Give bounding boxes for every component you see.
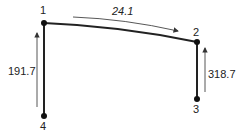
frame-diagram: 1 2 3 4 24.1 318.7 191.7 — [0, 0, 240, 137]
diagram-svg: 1 2 3 4 24.1 318.7 191.7 — [0, 0, 240, 137]
node-4 — [41, 113, 47, 119]
flow-value-1-2: 24.1 — [111, 5, 133, 17]
node-label-2: 2 — [193, 26, 199, 38]
node-label-4: 4 — [40, 120, 46, 132]
node-label-1: 1 — [40, 4, 46, 16]
flow-value-3-2: 318.7 — [208, 68, 236, 80]
node-2 — [194, 39, 200, 45]
node-3 — [194, 96, 200, 102]
node-1 — [41, 20, 47, 26]
member-1-2 — [44, 23, 197, 42]
node-label-3: 3 — [193, 103, 199, 115]
flow-value-4-1: 191.7 — [8, 65, 36, 77]
flow-arrow-1-2 — [73, 17, 178, 31]
